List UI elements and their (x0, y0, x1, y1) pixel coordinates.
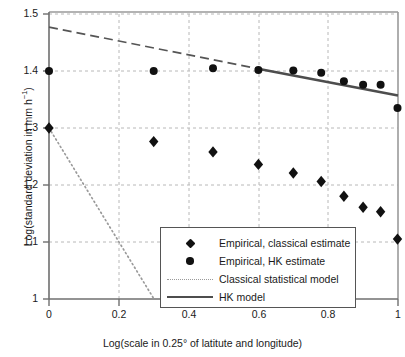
legend-item-hk-model: HK model (161, 288, 355, 306)
y-axis-label-tail: ) (22, 87, 34, 91)
data-point (149, 136, 158, 147)
diamond-marker-icon (161, 234, 219, 252)
legend-item-label: Empirical, HK estimate (219, 255, 325, 267)
legend-item-label: Classical statistical model (219, 273, 339, 285)
series-line-hk-model (258, 69, 398, 96)
solid-line-icon (161, 288, 219, 306)
data-point (339, 191, 348, 202)
x-tick-label: 0.2 (99, 309, 139, 320)
data-point (317, 176, 326, 187)
data-point (377, 81, 385, 89)
series-line-classical-statistical-model (49, 128, 154, 299)
x-axis-label: Log(scale in 0.25° of latitute and longi… (0, 337, 405, 349)
legend-item-label: Empirical, classical estimate (219, 237, 350, 249)
data-point (289, 167, 298, 178)
data-point (208, 146, 217, 157)
grid-horizontal (49, 14, 398, 242)
data-point (289, 66, 297, 74)
data-point (317, 69, 325, 77)
chart-legend: Empirical, classical estimate Empirical,… (160, 227, 356, 308)
legend-item-label: HK model (219, 291, 265, 303)
data-point (359, 81, 367, 89)
data-point (340, 77, 348, 85)
data-point (254, 159, 263, 170)
x-tick-label: 0.4 (169, 309, 209, 320)
data-point (209, 64, 217, 72)
x-tick-label: 1 (378, 309, 405, 320)
legend-item-empirical-classical-estimate: Empirical, classical estimate (161, 234, 355, 252)
legend-item-classical-statistical-model: Classical statistical model (161, 270, 355, 288)
data-point (393, 233, 402, 244)
circle-marker-icon (161, 252, 219, 270)
chart-figure: 1.5 1.4 1.3 1.2 1.1 1 0 0.2 0.4 0.6 0.8 … (0, 0, 405, 357)
data-point (358, 202, 367, 213)
series-line-hk-model-extension (49, 27, 258, 69)
data-point (45, 67, 53, 75)
data-point (394, 104, 402, 112)
data-point (150, 67, 158, 75)
x-tick-label: 0.6 (239, 309, 279, 320)
y-axis-label-exponent: −1 (20, 91, 29, 100)
data-point (254, 66, 262, 74)
y-axis-label: Log(standard deviation in mm h−1) (20, 22, 34, 312)
y-tick-label: 1.5 (0, 8, 38, 19)
x-tick-label: 0 (29, 309, 69, 320)
dotted-line-icon (161, 270, 219, 288)
y-tick-marks (43, 14, 49, 299)
legend-item-empirical-hk-estimate: Empirical, HK estimate (161, 252, 355, 270)
x-tick-label: 0.8 (308, 309, 348, 320)
data-point (376, 206, 385, 217)
y-axis-label-main: Log(standard deviation in mm h (22, 99, 34, 246)
